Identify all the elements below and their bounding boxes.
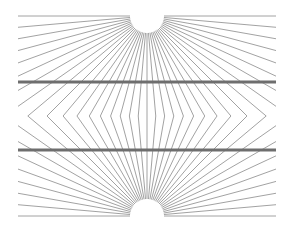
ray-line <box>18 26 133 107</box>
ray-line <box>18 205 130 215</box>
ray-line <box>18 169 131 210</box>
ray-line <box>77 30 137 116</box>
ray-line <box>18 23 132 76</box>
ray-line <box>164 17 276 27</box>
ray-line <box>163 169 276 210</box>
ray-line <box>47 28 135 116</box>
ray-line <box>158 116 231 203</box>
ray-line <box>159 28 247 116</box>
illusion-canvas <box>0 0 294 237</box>
ray-line <box>157 30 217 116</box>
ray-line <box>18 126 133 207</box>
ray-line <box>18 22 131 63</box>
hering-illusion-figure: Hering illusion <box>0 0 294 237</box>
ray-line <box>161 26 276 107</box>
ray-line <box>158 29 231 116</box>
ray-line <box>77 116 137 202</box>
ray-line <box>63 29 136 116</box>
ray-line <box>159 116 247 204</box>
ray-line <box>157 116 217 202</box>
ray-line <box>161 126 276 207</box>
ray-line <box>163 22 276 63</box>
ray-line <box>164 205 276 215</box>
ray-line <box>18 17 130 27</box>
ray-group <box>18 16 276 216</box>
ray-line <box>162 23 276 76</box>
ray-line <box>63 116 136 203</box>
ray-line <box>162 156 276 209</box>
ray-line <box>47 116 135 204</box>
ray-line <box>18 156 132 209</box>
